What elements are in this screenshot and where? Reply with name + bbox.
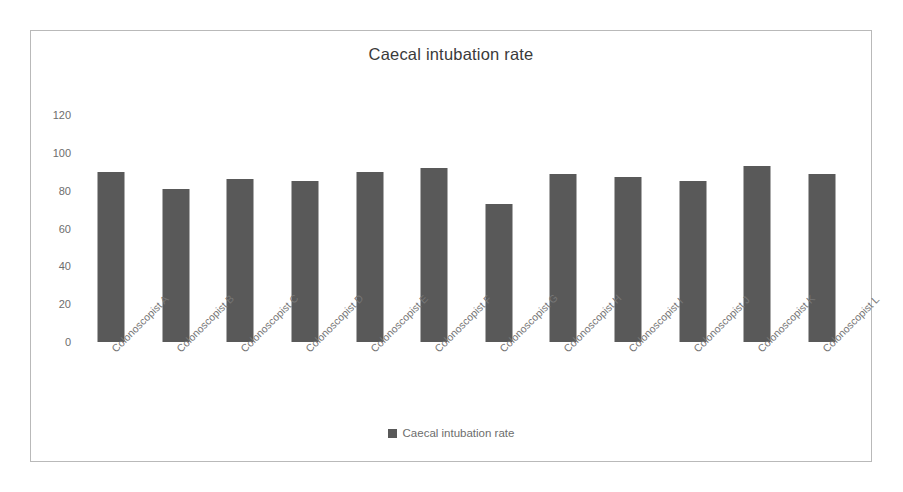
- bar[interactable]: [679, 181, 706, 342]
- x-label-slot: Colonoscopist E: [337, 342, 402, 437]
- chart-legend: Caecal intubation rate: [31, 427, 871, 439]
- bar[interactable]: [744, 166, 771, 342]
- y-axis-tick-label: 0: [65, 336, 71, 348]
- legend-label: Caecal intubation rate: [403, 427, 515, 439]
- bar[interactable]: [356, 172, 383, 342]
- y-axis-tick-label: 40: [59, 260, 71, 272]
- y-axis-tick-label: 20: [59, 298, 71, 310]
- x-label-slot: Colonoscopist I: [596, 342, 661, 437]
- bar[interactable]: [292, 181, 319, 342]
- bar[interactable]: [421, 168, 448, 342]
- bar[interactable]: [485, 204, 512, 342]
- y-axis: 020406080100120: [31, 115, 77, 342]
- x-axis-category-labels: Colonoscopist AColonoscopist BColonoscop…: [79, 342, 854, 437]
- y-axis-tick-label: 80: [59, 185, 71, 197]
- bar[interactable]: [808, 174, 835, 342]
- bar-slot: [79, 115, 144, 342]
- y-axis-tick-label: 60: [59, 223, 71, 235]
- x-label-slot: Colonoscopist C: [208, 342, 273, 437]
- bar[interactable]: [227, 179, 254, 342]
- x-label-slot: Colonoscopist B: [144, 342, 209, 437]
- x-label-slot: Colonoscopist D: [273, 342, 338, 437]
- bar[interactable]: [614, 177, 641, 342]
- x-label-slot: Colonoscopist H: [531, 342, 596, 437]
- legend-swatch-icon: [388, 429, 397, 438]
- x-label-slot: Colonoscopist L: [789, 342, 854, 437]
- x-label-slot: Colonoscopist A: [79, 342, 144, 437]
- x-label-slot: Colonoscopist K: [725, 342, 790, 437]
- y-axis-tick-label: 100: [53, 147, 71, 159]
- y-axis-tick-label: 120: [53, 109, 71, 121]
- bar[interactable]: [98, 172, 125, 342]
- bar[interactable]: [162, 189, 189, 342]
- bar[interactable]: [550, 174, 577, 342]
- x-label-slot: Colonoscopist F: [402, 342, 467, 437]
- chart-frame: Caecal intubation rate 020406080100120 C…: [30, 30, 872, 462]
- x-label-slot: Colonoscopist J: [660, 342, 725, 437]
- x-label-slot: Colonoscopist G: [467, 342, 532, 437]
- chart-title: Caecal intubation rate: [31, 45, 871, 64]
